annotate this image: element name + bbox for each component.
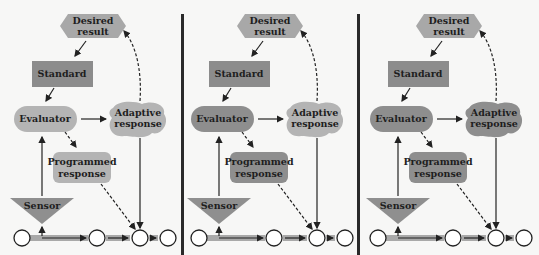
standard-node: Standard xyxy=(32,61,93,87)
svg-text:response: response xyxy=(414,168,462,179)
evaluator-node: Evaluator xyxy=(14,106,77,132)
standard-node: Standard xyxy=(209,61,270,87)
programmed-response-node: Programmed response xyxy=(47,152,116,183)
process-chain xyxy=(191,230,353,246)
svg-text:Standard: Standard xyxy=(215,68,264,79)
svg-text:Adaptive: Adaptive xyxy=(291,107,338,118)
svg-text:Evaluator: Evaluator xyxy=(375,113,427,124)
panel-2: Desired result Standard Evaluator Adapti… xyxy=(177,0,357,255)
svg-text:Sensor: Sensor xyxy=(380,200,417,211)
panel-1: Desired result Standard Evaluator Adapti… xyxy=(0,0,180,255)
chain-node-4 xyxy=(337,230,353,246)
standard-node: Standard xyxy=(388,61,449,87)
process-chain xyxy=(14,230,176,246)
chain-node-2 xyxy=(445,230,461,246)
svg-text:Evaluator: Evaluator xyxy=(19,113,71,124)
panel-separator-1 xyxy=(181,14,184,255)
svg-text:Sensor: Sensor xyxy=(24,200,61,211)
chain-node-4 xyxy=(516,230,532,246)
chain-node-3 xyxy=(488,230,504,246)
svg-text:Evaluator: Evaluator xyxy=(196,113,248,124)
adaptive-response-node: Adaptive response xyxy=(286,102,343,137)
sensor-node: Sensor xyxy=(187,198,251,224)
svg-text:result: result xyxy=(254,26,286,37)
programmed-response-node: Programmed response xyxy=(403,152,472,183)
chain-node-3 xyxy=(132,230,148,246)
svg-text:response: response xyxy=(235,168,283,179)
evaluator-node: Evaluator xyxy=(191,106,254,132)
chain-node-2 xyxy=(89,230,105,246)
svg-text:Desired: Desired xyxy=(250,15,291,26)
svg-text:Desired: Desired xyxy=(73,15,114,26)
sensor-node: Sensor xyxy=(366,198,430,224)
adaptive-response-node: Adaptive response xyxy=(465,102,522,137)
svg-text:Programmed: Programmed xyxy=(224,156,293,167)
svg-text:response: response xyxy=(114,118,162,129)
svg-text:result: result xyxy=(433,26,465,37)
svg-text:Sensor: Sensor xyxy=(201,200,238,211)
svg-text:Standard: Standard xyxy=(394,68,443,79)
chain-node-2 xyxy=(266,230,282,246)
adaptive-response-node: Adaptive response xyxy=(109,102,166,137)
svg-text:response: response xyxy=(291,118,339,129)
chain-node-1 xyxy=(370,230,386,246)
svg-text:Adaptive: Adaptive xyxy=(470,107,517,118)
chain-node-4 xyxy=(160,230,176,246)
svg-text:Programmed: Programmed xyxy=(47,156,116,167)
desired-result-node: Desired result xyxy=(416,14,482,38)
desired-result-node: Desired result xyxy=(237,14,303,38)
chain-node-1 xyxy=(191,230,207,246)
sensor-node: Sensor xyxy=(10,198,74,224)
chain-node-3 xyxy=(309,230,325,246)
panel-separator-2 xyxy=(357,14,360,255)
svg-text:Standard: Standard xyxy=(38,68,87,79)
svg-text:Desired: Desired xyxy=(429,15,470,26)
svg-text:result: result xyxy=(77,26,109,37)
evaluator-node: Evaluator xyxy=(370,106,433,132)
panel-3: Desired result Standard Evaluator Adapti… xyxy=(356,0,536,255)
programmed-response-node: Programmed response xyxy=(224,152,293,183)
svg-text:response: response xyxy=(470,118,518,129)
svg-text:Programmed: Programmed xyxy=(403,156,472,167)
svg-text:Adaptive: Adaptive xyxy=(114,107,161,118)
desired-result-node: Desired result xyxy=(60,14,126,38)
chain-node-1 xyxy=(14,230,30,246)
process-chain xyxy=(370,230,532,246)
svg-text:response: response xyxy=(58,168,106,179)
